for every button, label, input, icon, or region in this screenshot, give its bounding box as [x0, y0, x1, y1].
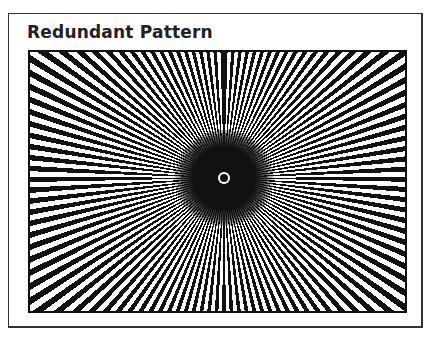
starburst-pattern	[28, 50, 407, 313]
figure-title: Redundant Pattern	[27, 22, 213, 42]
center-circle-icon	[218, 172, 230, 184]
